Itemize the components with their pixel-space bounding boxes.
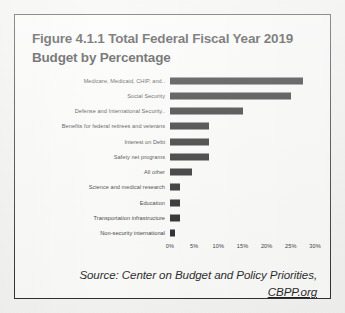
bar-row: Science and medical research xyxy=(32,180,315,195)
bar-track xyxy=(170,210,315,225)
source-attribution: Source: Center on Budget and Policy Prio… xyxy=(39,267,317,299)
bar xyxy=(170,230,175,237)
bar xyxy=(170,215,180,222)
category-label: Defense and International Security.. xyxy=(32,108,170,114)
category-label: Social Security xyxy=(32,93,170,99)
category-label: Medicare, Medicaid, CHIP, and.. xyxy=(32,78,170,84)
category-label: Safety net programs xyxy=(32,154,170,160)
bar-track xyxy=(170,149,315,164)
x-axis-ticks: 0%5%10%15%20%25%30% xyxy=(170,243,315,257)
x-tick-label: 5% xyxy=(190,243,198,249)
bar xyxy=(170,199,180,206)
category-label: All other xyxy=(32,169,170,175)
x-tick-label: 0% xyxy=(166,243,174,249)
bar xyxy=(170,77,303,84)
bar-track xyxy=(170,73,315,88)
category-label: Non-security international xyxy=(32,230,170,236)
bar xyxy=(170,123,209,130)
category-label: Science and medical research xyxy=(32,184,170,190)
bar xyxy=(170,108,243,115)
bar-row: Transportation infrastructure xyxy=(32,210,315,225)
bar-track xyxy=(170,88,315,103)
bar-row: Interest on Debt xyxy=(32,134,315,149)
bar-row: Non-security international xyxy=(32,226,315,241)
bar-track xyxy=(170,134,315,149)
cbpp-link[interactable]: CBPP.org xyxy=(268,284,317,299)
x-tick-label: 30% xyxy=(309,243,321,249)
figure-container: Figure 4.1.1 Total Federal Fiscal Year 2… xyxy=(14,14,331,299)
x-tick-label: 15% xyxy=(237,243,249,249)
category-label: Interest on Debt xyxy=(32,139,170,145)
bar xyxy=(170,169,192,176)
source-text: Source: Center on Budget and Policy Prio… xyxy=(39,267,317,284)
bar-row: Medicare, Medicaid, CHIP, and.. xyxy=(32,73,315,88)
chart-title: Figure 4.1.1 Total Federal Fiscal Year 2… xyxy=(32,29,312,67)
bar xyxy=(170,138,209,145)
bar xyxy=(170,184,180,191)
bar-chart-plot-area: Medicare, Medicaid, CHIP, and..Social Se… xyxy=(32,73,315,241)
bar-track xyxy=(170,195,315,210)
category-label: Education xyxy=(32,200,170,206)
category-label: Transportation infrastructure xyxy=(32,215,170,221)
x-tick-label: 10% xyxy=(213,243,225,249)
bar-row: Safety net programs xyxy=(32,149,315,164)
bar-row: All other xyxy=(32,165,315,180)
scanned-page: Figure 4.1.1 Total Federal Fiscal Year 2… xyxy=(0,0,345,313)
bar xyxy=(170,153,209,160)
x-tick-label: 20% xyxy=(261,243,273,249)
bar-track xyxy=(170,119,315,134)
bar-track xyxy=(170,180,315,195)
bar-row: Defense and International Security.. xyxy=(32,104,315,119)
x-axis: 0%5%10%15%20%25%30% xyxy=(32,243,315,257)
bar-row: Social Security xyxy=(32,88,315,103)
bar-row: Education xyxy=(32,195,315,210)
x-tick-label: 25% xyxy=(285,243,297,249)
bar-row: Benefits for federal retirees and vetera… xyxy=(32,119,315,134)
category-label: Benefits for federal retirees and vetera… xyxy=(32,123,170,129)
bar-track xyxy=(170,165,315,180)
bar xyxy=(170,92,291,99)
bar-track xyxy=(170,226,315,241)
bar-track xyxy=(170,104,315,119)
